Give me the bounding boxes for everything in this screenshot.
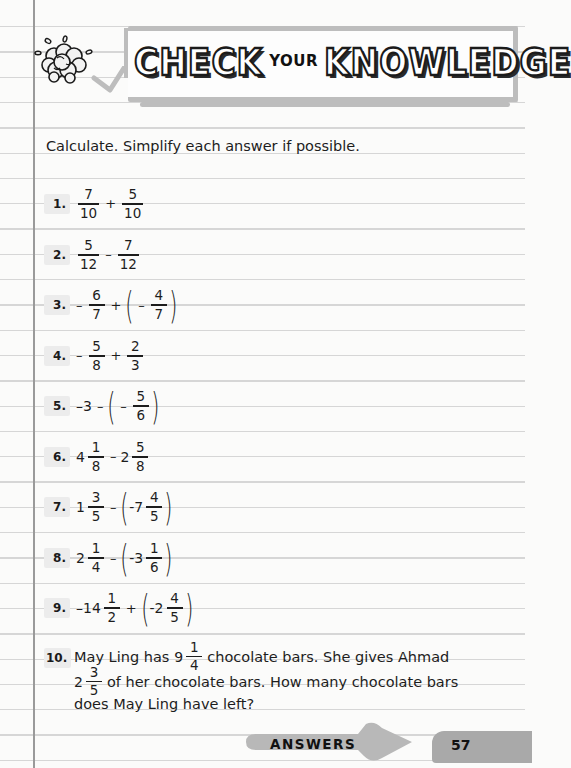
whole-number: 2 bbox=[76, 550, 85, 566]
expression: 1 35 – ( -7 45 ) bbox=[76, 488, 173, 526]
fraction: 67 bbox=[89, 288, 105, 321]
denominator: 10 bbox=[78, 206, 99, 221]
text: May Ling has bbox=[74, 649, 169, 665]
left-paren: ( bbox=[126, 286, 134, 324]
denominator: 10 bbox=[122, 206, 143, 221]
denominator: 8 bbox=[134, 459, 147, 474]
problem-8: 8. 2 14 – ( -3 16 ) bbox=[44, 535, 173, 581]
denominator: 8 bbox=[90, 459, 103, 474]
title-check: CHECK bbox=[134, 39, 263, 84]
whole-number: 2 bbox=[120, 449, 129, 465]
instructions: Calculate. Simplify each answer if possi… bbox=[46, 138, 360, 154]
negative-sign: – bbox=[120, 399, 127, 414]
operator: – bbox=[110, 500, 117, 515]
expression: –3 – ( – 56 ) bbox=[76, 387, 160, 425]
left-paren: ( bbox=[141, 589, 149, 627]
fraction: 56 bbox=[133, 389, 149, 422]
denominator: 12 bbox=[118, 257, 139, 272]
negative-sign: – bbox=[76, 348, 83, 363]
numerator: 4 bbox=[148, 490, 161, 505]
whole-number: 2 bbox=[74, 674, 83, 690]
whole-number: 1 bbox=[76, 499, 85, 515]
operator: + bbox=[111, 348, 122, 363]
right-paren: ) bbox=[169, 286, 177, 324]
expression: 512 – 712 bbox=[76, 238, 141, 271]
expression: 2 14 – ( -3 16 ) bbox=[76, 539, 173, 577]
whole-number: 4 bbox=[76, 449, 85, 465]
numerator: 1 bbox=[90, 440, 103, 455]
numerator: 1 bbox=[90, 541, 103, 556]
denominator: 6 bbox=[134, 408, 147, 423]
denominator: 7 bbox=[152, 307, 165, 322]
title-your: YOUR bbox=[269, 52, 318, 70]
denominator: 6 bbox=[148, 560, 161, 575]
denominator: 2 bbox=[106, 610, 119, 625]
page-number: 57 bbox=[451, 737, 470, 753]
numerator: 7 bbox=[82, 187, 95, 202]
problem-number: 9. bbox=[44, 598, 70, 618]
fraction: 58 bbox=[132, 440, 148, 473]
problem-number: 3. bbox=[44, 295, 70, 315]
right-paren: ) bbox=[185, 589, 193, 627]
denominator: 5 bbox=[168, 610, 181, 625]
numerator: 4 bbox=[168, 591, 181, 606]
text: chocolate bars. She gives Ahmad bbox=[207, 649, 449, 665]
operator: – bbox=[110, 551, 117, 566]
whole-number: –3 bbox=[76, 398, 92, 414]
denominator: 12 bbox=[78, 257, 99, 272]
numerator: 5 bbox=[134, 440, 147, 455]
operator: + bbox=[105, 196, 116, 211]
operator: + bbox=[111, 298, 122, 313]
numerator: 1 bbox=[148, 541, 161, 556]
fraction: 510 bbox=[122, 187, 143, 220]
left-paren: ( bbox=[121, 539, 129, 577]
problem-number: 1. bbox=[44, 194, 70, 214]
fraction: 23 bbox=[127, 339, 143, 372]
numerator: 5 bbox=[90, 339, 103, 354]
problem-number: 6. bbox=[44, 447, 70, 467]
numerator: 7 bbox=[122, 238, 135, 253]
problem-number: 4. bbox=[44, 346, 70, 366]
left-paren: ( bbox=[121, 488, 129, 526]
expression: 4 18 – 2 58 bbox=[76, 440, 150, 473]
page-title: CHECK YOUR KNOWLEDGE bbox=[134, 36, 571, 86]
denominator: 4 bbox=[90, 560, 103, 575]
brain-icon bbox=[32, 32, 94, 90]
denominator: 3 bbox=[129, 358, 142, 373]
right-paren: ) bbox=[165, 539, 173, 577]
fraction: 45 bbox=[146, 490, 162, 523]
banner-underline bbox=[140, 102, 510, 107]
negative-sign: – bbox=[138, 298, 145, 313]
fraction: 14 bbox=[88, 541, 104, 574]
operator: + bbox=[126, 601, 137, 616]
denominator: 8 bbox=[90, 358, 103, 373]
numerator: 6 bbox=[90, 288, 103, 303]
expression: – 67 + ( – 47 ) bbox=[76, 286, 178, 324]
whole-number: -2 bbox=[150, 600, 164, 616]
fraction: 35 bbox=[86, 665, 102, 698]
margin-line bbox=[33, 0, 35, 768]
numerator: 3 bbox=[88, 665, 101, 680]
fraction: 47 bbox=[151, 288, 167, 321]
answers-link[interactable]: ANSWERS bbox=[270, 736, 356, 752]
word-problem-line-3: does May Ling have left? bbox=[74, 696, 254, 712]
fraction: 12 bbox=[104, 591, 120, 624]
numerator: 5 bbox=[82, 238, 95, 253]
right-paren: ) bbox=[165, 488, 173, 526]
numerator: 5 bbox=[126, 187, 139, 202]
numerator: 1 bbox=[106, 591, 119, 606]
whole-number: -7 bbox=[129, 499, 143, 515]
denominator: 5 bbox=[90, 509, 103, 524]
expression: – 58 + 23 bbox=[76, 339, 145, 372]
operator: – bbox=[97, 399, 104, 414]
problem-5: 5. –3 – ( – 56 ) bbox=[44, 383, 160, 429]
numerator: 1 bbox=[188, 640, 201, 655]
numerator: 2 bbox=[129, 339, 142, 354]
fraction: 16 bbox=[146, 541, 162, 574]
whole-number: –14 bbox=[76, 600, 101, 616]
problem-number: 2. bbox=[44, 245, 70, 265]
operator: – bbox=[110, 449, 117, 464]
problem-number: 10. bbox=[44, 648, 71, 668]
header-banner: CHECK YOUR KNOWLEDGE bbox=[28, 14, 498, 104]
text: of her chocolate bars. How many chocolat… bbox=[107, 674, 458, 690]
